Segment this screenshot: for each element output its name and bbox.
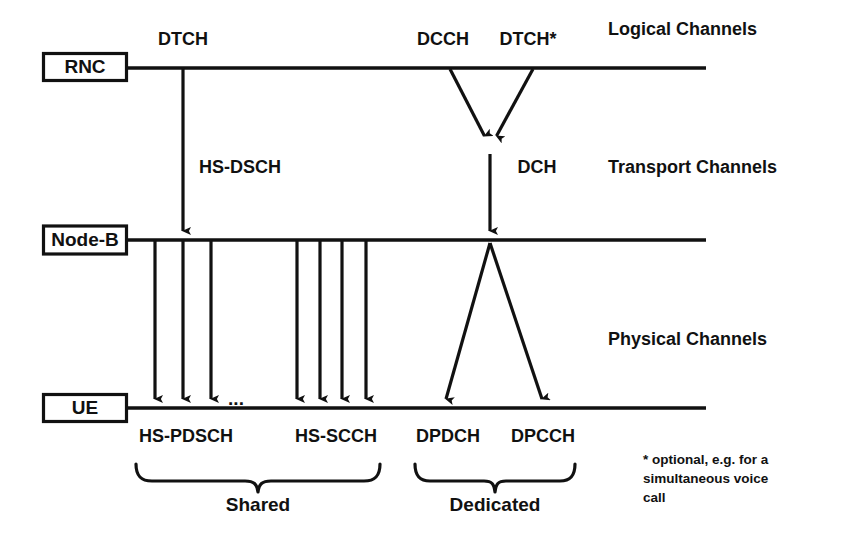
- channel-mapping-diagram: RNC Node-B UE DTCH DCC: [0, 0, 841, 548]
- section-label-logical-channels: Logical Channels: [608, 19, 757, 39]
- node-nodeb-label: Node-B: [51, 229, 119, 250]
- group-label-shared: Shared: [226, 494, 290, 515]
- footnote-line-3: call: [643, 490, 666, 505]
- node-ue[interactable]: UE: [44, 395, 127, 422]
- footnote-line-2: simultaneous voice: [643, 471, 769, 486]
- label-dtch-star-logical: DTCH*: [500, 29, 557, 49]
- section-label-transport-channels: Transport Channels: [608, 157, 777, 177]
- hs-pdsch-ellipsis: ...: [228, 388, 244, 409]
- label-dpcch-physical: DPCCH: [511, 426, 575, 446]
- label-dtch-logical: DTCH: [158, 29, 208, 49]
- group-label-dedicated: Dedicated: [450, 494, 541, 515]
- node-ue-label: UE: [72, 397, 98, 418]
- label-hs-dsch-transport: HS-DSCH: [199, 157, 281, 177]
- node-rnc-label: RNC: [64, 56, 105, 77]
- label-dcch-logical: DCCH: [417, 29, 469, 49]
- arrow-dch-to-dpcch: [490, 243, 542, 399]
- arrow-dtch-star-to-dch: [497, 69, 534, 136]
- arrow-dch-to-dpdch: [446, 243, 490, 399]
- node-nodeb[interactable]: Node-B: [44, 226, 127, 254]
- brace-dedicated: [415, 464, 575, 492]
- arrow-dcch-to-dch: [450, 69, 485, 136]
- section-label-physical-channels: Physical Channels: [608, 329, 767, 349]
- label-hs-pdsch-physical: HS-PDSCH: [139, 426, 233, 446]
- node-rnc[interactable]: RNC: [44, 54, 127, 81]
- label-hs-scch-physical: HS-SCCH: [295, 426, 377, 446]
- diagram-canvas: RNC Node-B UE DTCH DCC: [0, 0, 841, 548]
- footnote-line-1: * optional, e.g. for a: [643, 452, 769, 467]
- label-dpdch-physical: DPDCH: [416, 426, 480, 446]
- label-dch-transport: DCH: [518, 157, 557, 177]
- brace-shared: [136, 464, 380, 492]
